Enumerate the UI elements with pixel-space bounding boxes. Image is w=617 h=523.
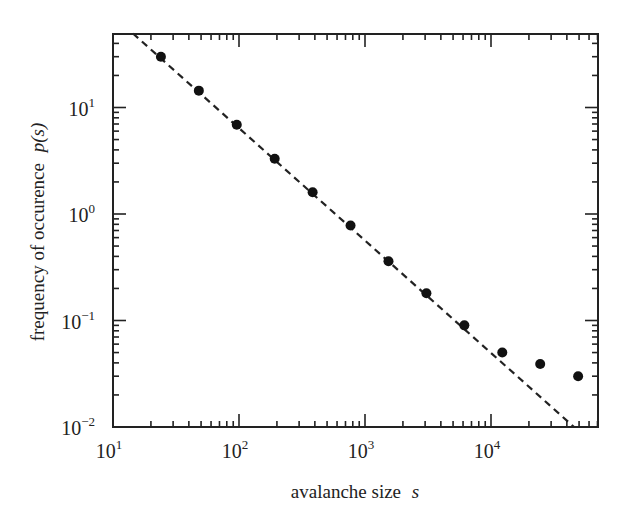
x-tick-label: 104 bbox=[474, 437, 501, 462]
plot-frame bbox=[113, 34, 598, 427]
data-point bbox=[573, 371, 583, 381]
tick-exponent: 0 bbox=[89, 201, 96, 216]
y-axis-label-text: frequency of occurence bbox=[27, 163, 48, 341]
data-point bbox=[308, 187, 318, 197]
x-tick-label: 101 bbox=[96, 437, 123, 462]
y-tick-label: 10−1 bbox=[61, 308, 95, 333]
data-point bbox=[270, 154, 280, 164]
x-axis-label-text: avalanche size bbox=[291, 481, 401, 502]
y-tick-label: 100 bbox=[69, 201, 96, 226]
tick-exponent: −2 bbox=[81, 414, 95, 429]
y-tick-label: 101 bbox=[69, 95, 96, 120]
axis-ticks bbox=[113, 34, 598, 427]
data-point bbox=[346, 220, 356, 230]
x-axis-label-var: s bbox=[412, 481, 419, 502]
x-tick-label: 102 bbox=[222, 437, 249, 462]
tick-base: 10 bbox=[348, 440, 368, 462]
y-tick-labels: 10−210−1100101 bbox=[61, 95, 95, 440]
tick-exponent: 1 bbox=[116, 437, 123, 452]
data-point bbox=[497, 348, 507, 358]
tick-base: 10 bbox=[474, 440, 494, 462]
x-tick-labels: 101102103104 bbox=[96, 437, 501, 462]
tick-base: 10 bbox=[96, 440, 116, 462]
tick-base: 10 bbox=[61, 311, 81, 333]
x-tick-label: 103 bbox=[348, 437, 375, 462]
tick-base: 10 bbox=[69, 98, 89, 120]
tick-base: 10 bbox=[222, 440, 242, 462]
chart: 101102103104 10−210−1100101 avalanche si… bbox=[0, 0, 617, 523]
data-point bbox=[459, 320, 469, 330]
data-point bbox=[535, 359, 545, 369]
data-point bbox=[156, 52, 166, 62]
data-points bbox=[156, 52, 583, 382]
y-axis-label-var: p(s) bbox=[27, 123, 49, 155]
tick-exponent: 3 bbox=[368, 437, 375, 452]
y-tick-label: 10−2 bbox=[61, 414, 95, 439]
tick-base: 10 bbox=[61, 417, 81, 439]
tick-base: 10 bbox=[69, 204, 89, 226]
tick-exponent: 4 bbox=[494, 437, 501, 452]
data-point bbox=[421, 288, 431, 298]
data-point bbox=[232, 120, 242, 130]
tick-exponent: 2 bbox=[242, 437, 249, 452]
data-point bbox=[383, 256, 393, 266]
x-axis-label: avalanche size s bbox=[291, 481, 419, 502]
tick-exponent: −1 bbox=[81, 308, 95, 323]
y-axis-label: frequency of occurence p(s) bbox=[27, 123, 49, 342]
data-point bbox=[194, 86, 204, 96]
tick-exponent: 1 bbox=[89, 95, 96, 110]
